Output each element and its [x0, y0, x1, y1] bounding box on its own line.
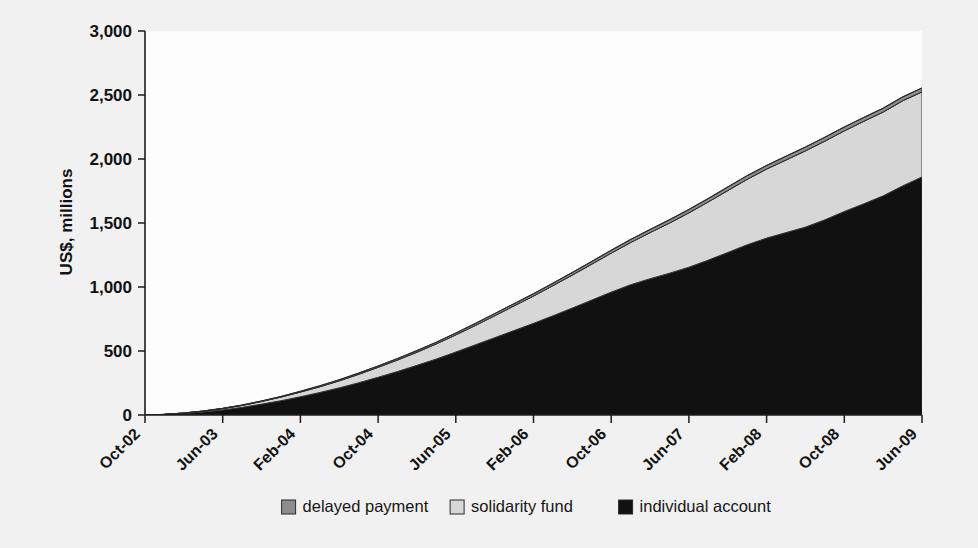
x-tick-label: Jun-07 — [639, 425, 688, 474]
legend-swatch — [282, 500, 296, 514]
y-tick-label: 1,500 — [89, 214, 132, 233]
legend-label: individual account — [640, 497, 772, 515]
x-tick-label: Jun-09 — [872, 425, 921, 474]
y-tick-label: 2,500 — [89, 86, 132, 105]
y-axis-title: US$, millions — [57, 169, 76, 276]
legend-swatch — [619, 500, 633, 514]
x-tick-label: Feb-08 — [716, 425, 765, 474]
x-tick-label: Jun-03 — [172, 425, 221, 474]
x-tick-label: Oct-04 — [329, 425, 376, 472]
y-tick-label: 2,000 — [89, 150, 132, 169]
y-tick-label: 0 — [123, 406, 132, 425]
stacked-area-chart: 05001,0001,5002,0002,5003,000 Oct-02Jun-… — [0, 0, 978, 548]
y-tick-label: 1,000 — [89, 278, 132, 297]
chart-legend: delayed paymentsolidarity fundindividual… — [282, 497, 772, 515]
y-tick-label: 3,000 — [89, 22, 132, 41]
x-tick-label: Oct-08 — [795, 425, 842, 472]
x-tick-label: Oct-06 — [562, 425, 609, 472]
figure-container: 05001,0001,5002,0002,5003,000 Oct-02Jun-… — [0, 0, 978, 548]
y-tick-layer: 05001,0001,5002,0002,5003,000 — [89, 22, 145, 425]
x-tick-layer: Oct-02Jun-03Feb-04Oct-04Jun-05Feb-06Oct-… — [96, 415, 922, 474]
y-tick-label: 500 — [104, 342, 132, 361]
x-tick-label: Jun-05 — [405, 425, 454, 474]
legend-swatch — [450, 500, 464, 514]
legend-label: delayed payment — [303, 497, 429, 515]
legend-label: solidarity fund — [471, 497, 573, 515]
x-tick-label: Feb-06 — [483, 425, 532, 474]
x-tick-label: Oct-02 — [96, 425, 143, 472]
x-tick-label: Feb-04 — [250, 425, 299, 474]
